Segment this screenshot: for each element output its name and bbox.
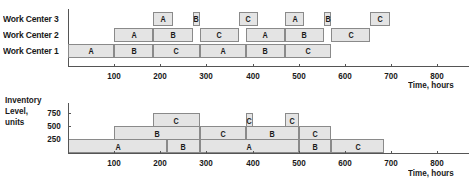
x-tick-label: 600 (338, 158, 352, 168)
gantt-task-bar: A (200, 44, 246, 58)
x-tick-mark (299, 64, 300, 67)
task-label: C (377, 14, 382, 24)
x-tick-label: 400 (246, 158, 260, 168)
gantt-task-bar: C (239, 12, 258, 26)
y-tick-750: 750 (47, 108, 61, 118)
x-tick-label: 800 (430, 158, 444, 168)
gantt-task-bar: B (153, 28, 192, 42)
x-tick-label: 600 (338, 71, 352, 81)
x-axis-title: Time, hours (408, 80, 454, 90)
gantt-task-bar: C (285, 44, 331, 58)
x-tick-label: 700 (384, 71, 398, 81)
y-tick-250: 250 (47, 134, 61, 144)
x-tick-label: 100 (107, 158, 121, 168)
y-axis-title-line: Level, (5, 106, 41, 117)
task-label: B (302, 30, 307, 40)
x-tick-label: 300 (200, 158, 214, 168)
row-label-wc2: Work Center 2 (3, 29, 58, 40)
gantt-task-bar: A (68, 44, 114, 58)
y-tick-500: 500 (47, 121, 61, 131)
x-tick-mark (253, 64, 254, 67)
task-label: A (160, 14, 165, 24)
y-axis (68, 9, 69, 67)
gantt-task-bar: B (193, 12, 200, 26)
segment-label: C (312, 129, 317, 139)
segment-label: B (312, 142, 317, 152)
x-tick-label: 100 (107, 71, 121, 81)
row-label-wc1: Work Center 1 (3, 45, 58, 56)
gantt-task-bar: A (285, 12, 304, 26)
gantt-task-bar: C (153, 44, 199, 58)
x-tick-mark (160, 151, 161, 154)
task-label: B (325, 14, 330, 24)
task-label: A (131, 30, 136, 40)
segment-label: A (115, 142, 120, 152)
task-label: A (220, 46, 225, 56)
x-tick-mark (114, 64, 115, 67)
segment-label: C (220, 129, 225, 139)
x-tick-mark (345, 64, 346, 67)
x-tick-label: 300 (200, 71, 214, 81)
segment-label: B (154, 129, 159, 139)
y-axis-title: Inventory Level, units (5, 95, 41, 128)
segment-label: C (289, 116, 294, 126)
x-tick-label: 200 (154, 158, 168, 168)
task-label: C (348, 30, 353, 40)
segment-label: B (181, 142, 186, 152)
x-tick-label: 200 (154, 71, 168, 81)
x-tick-mark (437, 151, 438, 154)
gantt-task-bar: C (200, 28, 239, 42)
task-label: A (88, 46, 93, 56)
task-label: A (292, 14, 297, 24)
gantt-task-bar: A (114, 28, 153, 42)
x-tick-label: 700 (384, 158, 398, 168)
task-label: C (174, 46, 179, 56)
task-label: C (305, 46, 310, 56)
x-tick-label: 500 (292, 71, 306, 81)
segment-label: C (174, 116, 179, 126)
gantt-task-bar: B (246, 44, 285, 58)
x-tick-label: 500 (292, 158, 306, 168)
x-tick-mark (206, 64, 207, 67)
task-label: B (263, 46, 268, 56)
x-tick-mark (299, 151, 300, 154)
x-tick-mark (391, 151, 392, 154)
x-tick-mark (391, 64, 392, 67)
gantt-task-bar: C (370, 12, 389, 26)
segment-label: C (355, 142, 360, 152)
y-axis-title-line: Inventory (5, 95, 41, 106)
x-axis (68, 153, 469, 154)
gantt-task-bar: B (285, 28, 324, 42)
segment-label: A (247, 142, 252, 152)
task-label: B (170, 30, 175, 40)
x-tick-mark (206, 151, 207, 154)
segment-label: B (270, 129, 275, 139)
gantt-task-bar: B (114, 44, 153, 58)
gantt-task-bar: B (324, 12, 331, 26)
segment-label: C (247, 116, 252, 126)
task-label: C (217, 30, 222, 40)
x-tick-label: 400 (246, 71, 260, 81)
y-axis-title-line: units (5, 117, 41, 128)
x-tick-mark (437, 64, 438, 67)
task-label: B (131, 46, 136, 56)
task-label: A (263, 30, 268, 40)
task-label: C (246, 14, 251, 24)
x-tick-mark (345, 151, 346, 154)
x-tick-mark (114, 151, 115, 154)
y-axis (68, 103, 69, 154)
x-tick-mark (160, 64, 161, 67)
task-label: B (193, 14, 198, 24)
x-tick-mark (253, 151, 254, 154)
gantt-task-bar: C (331, 28, 370, 42)
row-label-wc3: Work Center 3 (3, 13, 58, 24)
gantt-task-bar: A (153, 12, 172, 26)
x-axis (68, 66, 469, 67)
gantt-task-bar: A (246, 28, 285, 42)
x-axis-title: Time, hours (408, 168, 454, 178)
